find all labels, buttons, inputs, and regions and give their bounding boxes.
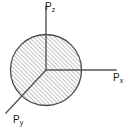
pz-subscript: z (52, 6, 56, 13)
py-axis-label: Py (13, 115, 23, 126)
px-axis-label: Px (113, 73, 123, 84)
py-symbol: P (13, 114, 20, 125)
diagram-canvas (0, 0, 128, 130)
pz-symbol: P (45, 1, 52, 12)
pz-axis-label: Pz (45, 2, 55, 13)
py-subscript: y (20, 119, 24, 126)
momentum-space-diagram: Pz Px Py (0, 0, 128, 130)
px-symbol: P (113, 72, 120, 83)
px-subscript: x (120, 77, 124, 84)
